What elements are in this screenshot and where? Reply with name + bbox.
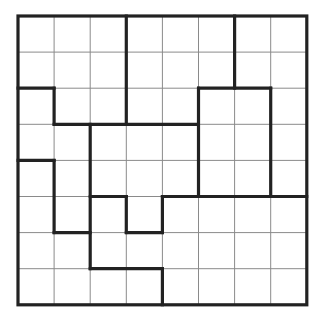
grid-cell[interactable] <box>90 124 126 160</box>
grid-cell[interactable] <box>90 160 126 196</box>
grid-cell[interactable] <box>126 16 162 52</box>
grid-cell[interactable] <box>54 197 90 233</box>
grid-cell[interactable] <box>235 88 271 124</box>
grid-cell[interactable] <box>271 197 307 233</box>
grid-cell[interactable] <box>271 16 307 52</box>
grid-cell[interactable] <box>126 52 162 88</box>
grid-cell[interactable] <box>18 269 54 305</box>
grid-cell[interactable] <box>54 269 90 305</box>
grid-cell[interactable] <box>162 88 198 124</box>
grid-cell[interactable] <box>199 16 235 52</box>
grid-cell[interactable] <box>199 197 235 233</box>
grid-cell[interactable] <box>90 269 126 305</box>
grid-cell[interactable] <box>162 233 198 269</box>
grid-cell[interactable] <box>18 52 54 88</box>
grid-cell[interactable] <box>271 88 307 124</box>
grid-cell[interactable] <box>235 160 271 196</box>
grid-cell[interactable] <box>126 88 162 124</box>
grid-cell[interactable] <box>18 88 54 124</box>
grid-cell[interactable] <box>54 16 90 52</box>
grid-cell[interactable] <box>126 124 162 160</box>
grid-cell[interactable] <box>199 269 235 305</box>
grid-cell[interactable] <box>199 160 235 196</box>
grid-cell[interactable] <box>54 124 90 160</box>
grid-cell[interactable] <box>126 233 162 269</box>
grid-cell[interactable] <box>18 16 54 52</box>
grid-cell[interactable] <box>235 269 271 305</box>
grid-cell[interactable] <box>271 233 307 269</box>
grid-cell[interactable] <box>90 16 126 52</box>
grid-cell[interactable] <box>54 160 90 196</box>
grid-cell[interactable] <box>162 269 198 305</box>
grid-cell[interactable] <box>271 269 307 305</box>
grid-cell[interactable] <box>54 52 90 88</box>
grid-cell[interactable] <box>90 88 126 124</box>
grid-cell[interactable] <box>18 197 54 233</box>
grid-cell[interactable] <box>18 160 54 196</box>
grid-cell[interactable] <box>271 124 307 160</box>
grid-cell[interactable] <box>199 233 235 269</box>
grid-cell[interactable] <box>235 197 271 233</box>
grid-cell[interactable] <box>271 160 307 196</box>
grid-cell[interactable] <box>271 52 307 88</box>
grid-cell[interactable] <box>90 52 126 88</box>
grid-cell[interactable] <box>126 197 162 233</box>
grid-cell[interactable] <box>199 52 235 88</box>
grid-cell[interactable] <box>18 124 54 160</box>
grid-cell[interactable] <box>126 160 162 196</box>
grid-cell[interactable] <box>90 233 126 269</box>
grid-cell[interactable] <box>235 124 271 160</box>
grid-cell[interactable] <box>235 233 271 269</box>
grid-cell[interactable] <box>54 88 90 124</box>
grid-cell[interactable] <box>162 197 198 233</box>
grid-cell[interactable] <box>199 88 235 124</box>
grid-cell[interactable] <box>18 233 54 269</box>
grid-cell[interactable] <box>162 160 198 196</box>
grid-cell[interactable] <box>162 52 198 88</box>
grid-cell[interactable] <box>235 16 271 52</box>
grid-cell[interactable] <box>126 269 162 305</box>
grid-cell[interactable] <box>162 124 198 160</box>
grid-cell[interactable] <box>162 16 198 52</box>
grid-cell[interactable] <box>199 124 235 160</box>
grid-cell[interactable] <box>90 197 126 233</box>
grid-cell[interactable] <box>235 52 271 88</box>
grid-cell[interactable] <box>54 233 90 269</box>
puzzle-board <box>0 0 327 325</box>
